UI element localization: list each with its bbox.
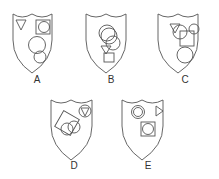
option-label-b: B <box>108 74 115 85</box>
triangle-icon <box>16 20 26 30</box>
option-label-d: D <box>70 160 77 171</box>
shield-outline-icon <box>51 100 92 160</box>
shield-option-d[interactable]: D <box>51 100 92 171</box>
shield-option-a[interactable]: A <box>13 14 52 85</box>
option-label-e: E <box>145 160 152 171</box>
option-label-c: C <box>181 74 188 85</box>
triangle-icon <box>156 106 163 116</box>
shield-outline-icon <box>158 14 198 73</box>
circle-icon <box>29 37 46 54</box>
shield-outline-icon <box>13 14 52 73</box>
circle-icon <box>39 22 50 33</box>
circle-icon <box>134 108 143 117</box>
square-icon <box>141 122 155 136</box>
option-label-a: A <box>34 74 41 85</box>
circle-icon <box>143 124 154 135</box>
circle-icon <box>177 47 193 63</box>
shield-option-c[interactable]: C <box>158 14 199 85</box>
triangle-icon <box>81 108 89 116</box>
shield-option-b[interactable]: B <box>86 14 126 85</box>
square-icon <box>104 53 114 62</box>
circle-icon <box>68 121 80 133</box>
shield-option-e[interactable]: E <box>122 100 163 171</box>
shield-options-figure: A B C D E <box>0 0 219 179</box>
